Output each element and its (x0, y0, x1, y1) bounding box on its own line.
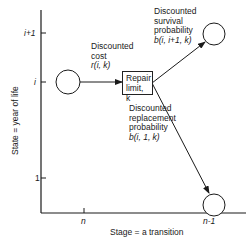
x-tick-label-n-minus-1: n-1 (203, 216, 215, 226)
replacement-label: Discounted replacement probability b(i, … (129, 104, 176, 142)
y-tick-label-i: i (34, 77, 36, 87)
x-tick-label-n: n (81, 216, 86, 226)
node-upper-right (203, 23, 225, 45)
y-tick-label-1: 1 (35, 173, 40, 183)
cost-label: Discounted cost r(i, k) (91, 42, 134, 71)
repair-limit-box: Repair limit, k (122, 71, 153, 95)
repair-limit-line1: Repair (126, 73, 149, 83)
diagram-canvas (0, 0, 251, 238)
x-axis-title: Stage = a transition (110, 228, 183, 238)
node-lower-right (203, 194, 225, 216)
repair-limit-line2: limit, k (126, 83, 149, 103)
survival-label: Discounted survival probability b(i, i+1… (154, 7, 197, 45)
y-tick-label-i-plus-1: i+1 (24, 28, 36, 38)
arrow-survival (152, 42, 205, 83)
y-axis-title: State = year of life (10, 86, 20, 155)
node-left (56, 70, 80, 94)
